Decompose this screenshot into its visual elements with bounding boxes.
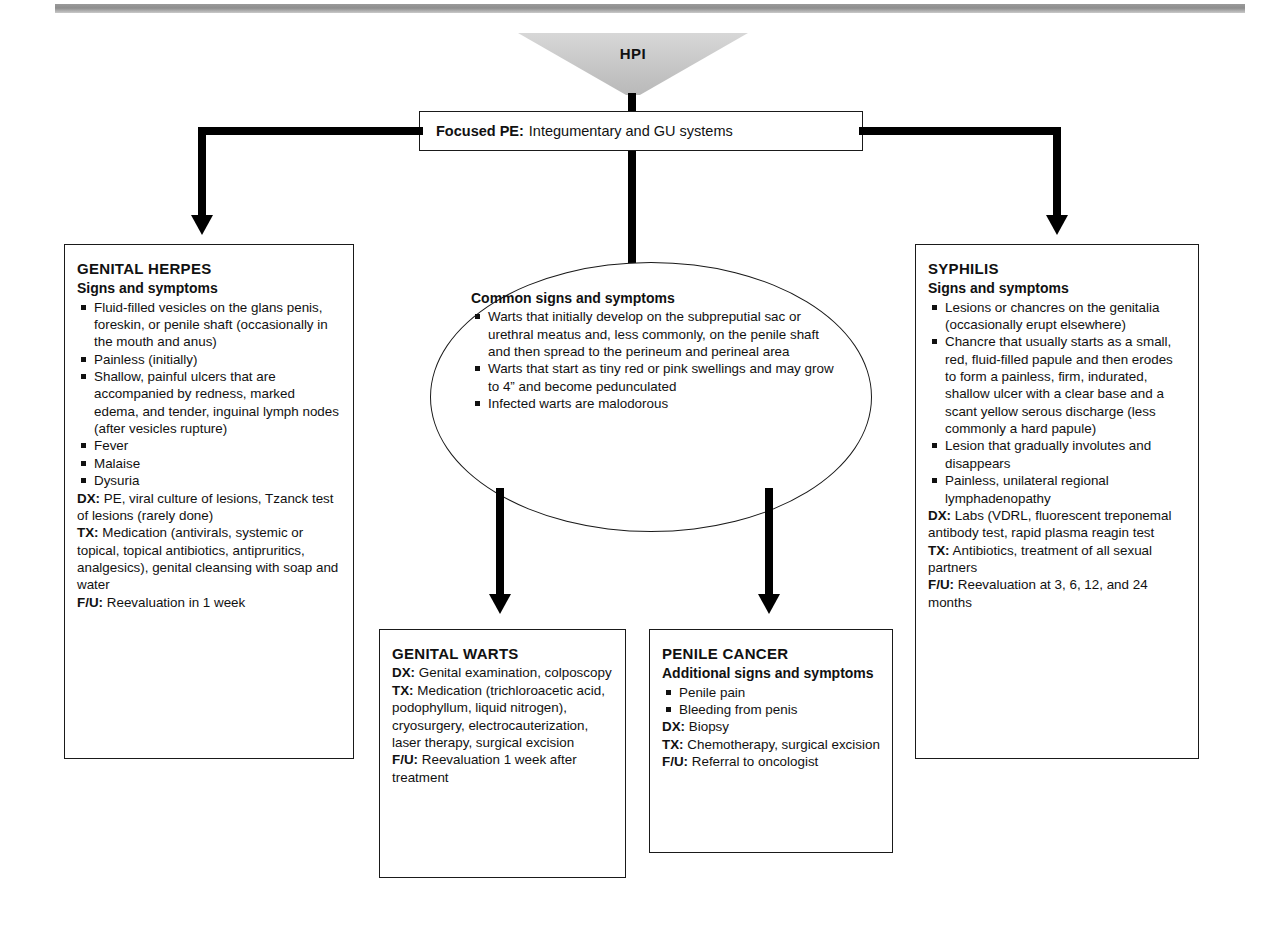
connector-left-vertical bbox=[198, 127, 206, 217]
connector-hpi-to-pe bbox=[628, 93, 636, 113]
genital-herpes-title: GENITAL HERPES bbox=[77, 259, 341, 278]
genital-herpes-box: GENITAL HERPES Signs and symptoms Fluid-… bbox=[64, 244, 354, 759]
page-top-rule bbox=[55, 4, 1245, 13]
genital-herpes-subtitle: Signs and symptoms bbox=[77, 279, 341, 297]
penile-cancer-box: PENILE CANCER Additional signs and sympt… bbox=[649, 629, 893, 853]
tx-value: Medication (antivirals, systemic or topi… bbox=[77, 525, 338, 592]
dx-value: Biopsy bbox=[689, 719, 729, 734]
tx-label: TX: bbox=[662, 737, 684, 752]
penile-cancer-bullet: Penile pain bbox=[662, 684, 880, 701]
genital-warts-box: GENITAL WARTS DX: Genital examination, c… bbox=[379, 629, 626, 878]
common-bullet: Warts that initially develop on the subp… bbox=[471, 308, 843, 360]
syphilis-fu: F/U: Reevaluation at 3, 6, 12, and 24 mo… bbox=[928, 576, 1186, 611]
connector-right-vertical bbox=[1053, 127, 1061, 217]
tx-value: Antibiotics, treatment of all sexual par… bbox=[928, 543, 1152, 575]
common-title: Common signs and symptoms bbox=[471, 289, 843, 307]
syphilis-dx: DX: Labs (VDRL, fluorescent treponemal a… bbox=[928, 507, 1186, 542]
dx-value: Genital examination, colposcopy bbox=[419, 665, 612, 680]
funnel-shape bbox=[518, 33, 748, 95]
common-bullet: Infected warts are malodorous bbox=[471, 395, 843, 412]
connector-left-horizontal bbox=[198, 127, 423, 135]
tx-label: TX: bbox=[392, 683, 414, 698]
syphilis-title: SYPHILIS bbox=[928, 259, 1186, 278]
dx-label: DX: bbox=[662, 719, 685, 734]
genital-warts-fu: F/U: Reevaluation 1 week after treatment bbox=[392, 751, 613, 786]
tx-value: Medication (trichloroacetic acid, podoph… bbox=[392, 683, 605, 750]
hpi-label: HPI bbox=[518, 45, 748, 62]
penile-cancer-fu: F/U: Referral to oncologist bbox=[662, 753, 880, 770]
arrow-to-penile-cancer bbox=[758, 594, 780, 614]
genital-herpes-bullet: Malaise bbox=[77, 455, 341, 472]
genital-herpes-dx: DX: PE, viral culture of lesions, Tzanck… bbox=[77, 490, 341, 525]
genital-warts-tx: TX: Medication (trichloroacetic acid, po… bbox=[392, 682, 613, 751]
tx-label: TX: bbox=[77, 525, 99, 540]
syphilis-tx: TX: Antibiotics, treatment of all sexual… bbox=[928, 542, 1186, 577]
connector-right-horizontal bbox=[859, 127, 1061, 135]
connector-pe-to-common bbox=[628, 151, 636, 268]
penile-cancer-title: PENILE CANCER bbox=[662, 644, 880, 663]
syphilis-bullet: Chancre that usually starts as a small, … bbox=[928, 333, 1186, 437]
penile-cancer-bullet: Bleeding from penis bbox=[662, 701, 880, 718]
syphilis-bullet: Painless, unilateral regional lymphadeno… bbox=[928, 472, 1186, 507]
dx-label: DX: bbox=[392, 665, 415, 680]
penile-cancer-dx: DX: Biopsy bbox=[662, 718, 880, 735]
arrow-to-syphilis bbox=[1046, 215, 1068, 235]
genital-herpes-bullet: Shallow, painful ulcers that are accompa… bbox=[77, 368, 341, 437]
syphilis-bullet: Lesion that gradually involutes and disa… bbox=[928, 437, 1186, 472]
genital-herpes-bullet: Painless (initially) bbox=[77, 351, 341, 368]
dx-label: DX: bbox=[928, 508, 951, 523]
arrow-to-genital-warts bbox=[489, 594, 511, 614]
genital-herpes-tx: TX: Medication (antivirals, systemic or … bbox=[77, 524, 341, 593]
arrow-to-genital-herpes bbox=[191, 215, 213, 235]
fu-label: F/U: bbox=[77, 595, 103, 610]
fu-value: Referral to oncologist bbox=[692, 754, 819, 769]
fu-label: F/U: bbox=[662, 754, 688, 769]
penile-cancer-tx: TX: Chemotherapy, surgical excision bbox=[662, 736, 880, 753]
dx-value: PE, viral culture of lesions, Tzanck tes… bbox=[77, 491, 334, 523]
focused-pe-lead: Focused PE: bbox=[436, 123, 524, 139]
genital-warts-dx: DX: Genital examination, colposcopy bbox=[392, 664, 613, 681]
common-bullet: Warts that start as tiny red or pink swe… bbox=[471, 360, 843, 395]
syphilis-bullet: Lesions or chancres on the genitalia (oc… bbox=[928, 299, 1186, 334]
fu-label: F/U: bbox=[392, 752, 418, 767]
genital-herpes-fu: F/U: Reevaluation in 1 week bbox=[77, 594, 341, 611]
syphilis-subtitle: Signs and symptoms bbox=[928, 279, 1186, 297]
connector-common-to-warts bbox=[496, 488, 504, 596]
genital-warts-title: GENITAL WARTS bbox=[392, 644, 613, 663]
hpi-funnel: HPI bbox=[518, 33, 748, 95]
connector-common-to-cancer bbox=[765, 488, 773, 596]
focused-pe-box: Focused PE: Integumentary and GU systems bbox=[419, 111, 863, 151]
genital-herpes-bullet: Fluid-filled vesicles on the glans penis… bbox=[77, 299, 341, 351]
tx-label: TX: bbox=[928, 543, 950, 558]
focused-pe-text: Integumentary and GU systems bbox=[529, 123, 733, 139]
fu-value: Reevaluation at 3, 6, 12, and 24 months bbox=[928, 577, 1148, 609]
fu-value: Reevaluation 1 week after treatment bbox=[392, 752, 577, 784]
penile-cancer-subtitle: Additional signs and symptoms bbox=[662, 664, 880, 682]
syphilis-box: SYPHILIS Signs and symptoms Lesions or c… bbox=[915, 244, 1199, 759]
dx-value: Labs (VDRL, fluorescent treponemal antib… bbox=[928, 508, 1171, 540]
fu-label: F/U: bbox=[928, 577, 954, 592]
genital-herpes-bullet: Dysuria bbox=[77, 472, 341, 489]
fu-value: Reevaluation in 1 week bbox=[107, 595, 245, 610]
genital-herpes-bullet: Fever bbox=[77, 437, 341, 454]
tx-value: Chemotherapy, surgical excision bbox=[687, 737, 880, 752]
dx-label: DX: bbox=[77, 491, 100, 506]
